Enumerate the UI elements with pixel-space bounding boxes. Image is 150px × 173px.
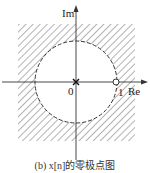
origin-label: 0 xyxy=(68,86,74,97)
zero-marker-icon xyxy=(113,79,119,85)
real-axis-arrow-icon xyxy=(141,80,148,85)
imag-axis-label: Im xyxy=(62,8,74,19)
imag-axis-arrow-icon xyxy=(74,5,79,12)
figure-caption: (b) x[n]的零极点图 xyxy=(0,157,150,172)
real-axis-label: Re xyxy=(128,86,140,97)
tick-label-one: 1 xyxy=(118,87,124,98)
